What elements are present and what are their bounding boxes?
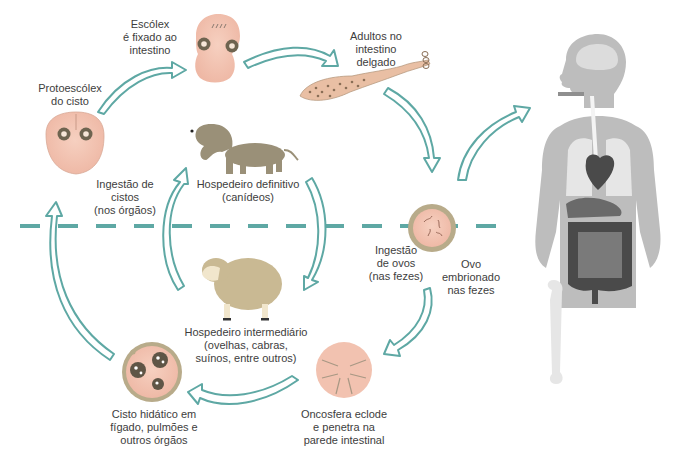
label-oncosphere: Oncosfera eclode e penetra na parede int… <box>296 408 392 447</box>
arrow-oncosphere-to-cyst <box>188 376 298 404</box>
arrow-egg-to-oncosphere <box>384 288 432 356</box>
oncosphere-icon <box>316 342 372 398</box>
label-intermediate-host: Hospedeiro intermediário (ovelhas, cabra… <box>180 326 312 365</box>
human-body-icon <box>535 34 660 384</box>
label-scolex: Escólex é fixado ao intestino <box>120 18 180 57</box>
label-adults: Adultos no intestino delgado <box>336 30 416 69</box>
scolex-icon <box>195 14 240 83</box>
hydatid-cyst-icon <box>122 342 182 402</box>
sheep-icon <box>202 258 282 321</box>
arrow-adults-to-egg <box>384 88 440 172</box>
protoscolex-icon <box>46 112 104 174</box>
arrow-egg-to-human <box>458 106 530 180</box>
dog-icon <box>190 124 298 174</box>
label-cyst-ingestion: Ingestão de cistos (nos órgãos) <box>90 178 160 217</box>
arrow-cyst-ingestion-up <box>163 168 188 290</box>
arrow-scolex-to-adults <box>244 48 338 68</box>
label-embryonated-egg: Ovo embrionado nas fezes <box>438 258 504 297</box>
label-definitive-host: Hospedeiro definitivo (canídeos) <box>188 178 308 204</box>
label-egg-ingestion: Ingestão de ovos (nas fezes) <box>366 244 426 283</box>
label-protoscolex: Protoescólex do cisto <box>30 82 110 108</box>
label-hydatid-cyst: Cisto hidático em fígado, pulmões e outr… <box>106 408 202 447</box>
arrow-protoscolex-to-scolex <box>98 62 186 114</box>
